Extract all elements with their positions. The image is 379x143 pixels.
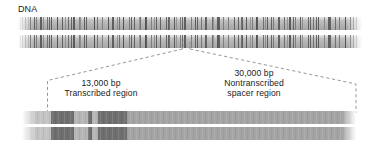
magnified-repeat-unit [22, 111, 356, 140]
repeat-unit-strand-upper [22, 111, 356, 124]
repeat-unit-texture-upper [22, 111, 356, 124]
repeat-unit-right-fade-lower [342, 127, 356, 140]
spacer-region-size: 30,000 bp [195, 68, 313, 78]
transcribed-region-name: Transcribed region [51, 88, 151, 98]
spacer-region-name-line1: Nontranscribed [195, 78, 313, 88]
repeat-unit-left-fade-lower [22, 127, 36, 140]
dna-strand-lower [18, 35, 362, 48]
dna-duplex [18, 17, 362, 48]
rdna-repeat-diagram: DNA 13,000 bp Transcribed region 30,000 … [0, 0, 379, 143]
dna-strand-upper [18, 17, 362, 30]
repeat-unit-right-fade-upper [342, 111, 356, 124]
spacer-region-label: 30,000 bp Nontranscribed spacer region [195, 68, 313, 99]
repeat-unit-strand-lower [22, 127, 356, 140]
transcribed-region-size: 13,000 bp [51, 78, 151, 88]
repeat-unit-left-fade-upper [22, 111, 36, 124]
spacer-region-name-line2: spacer region [195, 88, 313, 98]
repeat-unit-texture-lower [22, 127, 356, 140]
transcribed-region-label: 13,000 bp Transcribed region [51, 78, 151, 98]
dna-label: DNA [18, 5, 37, 15]
